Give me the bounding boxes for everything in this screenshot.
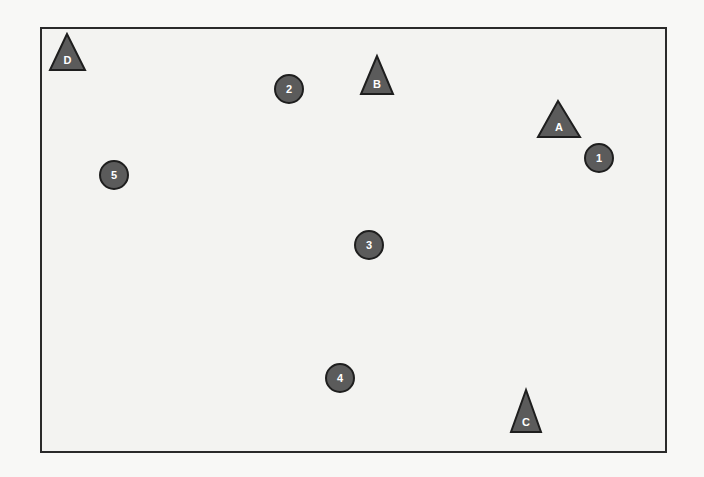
triangle-marker-b: B [361, 56, 393, 94]
triangle-label: D [64, 54, 72, 66]
circle-marker-5: 5 [100, 161, 128, 189]
diagram-canvas: DBAC 12345 [0, 0, 704, 477]
circle-marker-4: 4 [326, 364, 354, 392]
circle-marker-2: 2 [275, 75, 303, 103]
circle-label: 3 [366, 239, 372, 251]
triangle-group: DBAC [50, 34, 580, 432]
triangle-marker-c: C [511, 390, 541, 432]
circle-label: 4 [337, 372, 344, 384]
triangle-marker-d: D [50, 34, 85, 70]
circle-label: 2 [286, 83, 292, 95]
diagram-page: DBAC 12345 [0, 0, 704, 477]
triangle-label: B [373, 78, 381, 90]
circle-marker-3: 3 [355, 231, 383, 259]
triangle-marker-a: A [538, 101, 580, 137]
triangle-label: A [555, 121, 563, 133]
triangle-label: C [522, 416, 530, 428]
circle-label: 1 [596, 152, 602, 164]
circle-group: 12345 [100, 75, 613, 392]
circle-label: 5 [111, 169, 117, 181]
circle-marker-1: 1 [585, 144, 613, 172]
